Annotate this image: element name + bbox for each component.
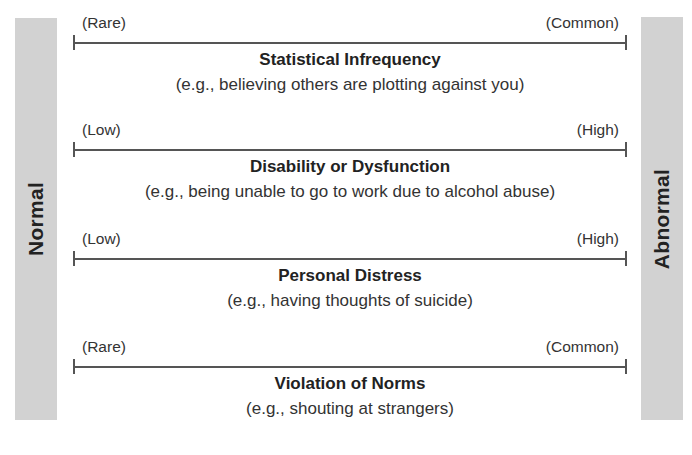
low-end-label: (Rare) (82, 14, 126, 32)
dimension-title: Personal Distress (73, 266, 627, 286)
abnormal-label: Abnormal (650, 168, 674, 268)
abnormal-side-bar: Abnormal (641, 17, 683, 420)
continuum-line (73, 366, 627, 368)
end-labels: (Low) (High) (73, 121, 627, 143)
dimension-example: (e.g., being unable to go to work due to… (73, 182, 627, 202)
low-end-label: (Low) (82, 230, 121, 248)
high-end-label: (Common) (546, 14, 619, 32)
dimension-example: (e.g., shouting at strangers) (73, 399, 627, 419)
right-tick (625, 251, 627, 266)
dimension-title: Violation of Norms (73, 374, 627, 394)
continuum-line (73, 149, 627, 151)
dimension-title: Statistical Infrequency (73, 50, 627, 70)
right-tick (625, 142, 627, 157)
high-end-label: (High) (577, 230, 619, 248)
high-end-label: (High) (577, 121, 619, 139)
dimension-example: (e.g., having thoughts of suicide) (73, 291, 627, 311)
left-tick (73, 359, 75, 374)
left-tick (73, 142, 75, 157)
right-tick (625, 35, 627, 50)
continuum-line (73, 258, 627, 260)
right-tick (625, 359, 627, 374)
left-tick (73, 35, 75, 50)
normal-label: Normal (24, 182, 48, 256)
left-tick (73, 251, 75, 266)
dimension-title: Disability or Dysfunction (73, 157, 627, 177)
low-end-label: (Rare) (82, 338, 126, 356)
end-labels: (Rare) (Common) (73, 14, 627, 36)
dimension-example: (e.g., believing others are plotting aga… (73, 75, 627, 95)
end-labels: (Low) (High) (73, 230, 627, 252)
continuum-line (73, 42, 627, 44)
normal-side-bar: Normal (15, 18, 57, 420)
end-labels: (Rare) (Common) (73, 338, 627, 360)
low-end-label: (Low) (82, 121, 121, 139)
high-end-label: (Common) (546, 338, 619, 356)
